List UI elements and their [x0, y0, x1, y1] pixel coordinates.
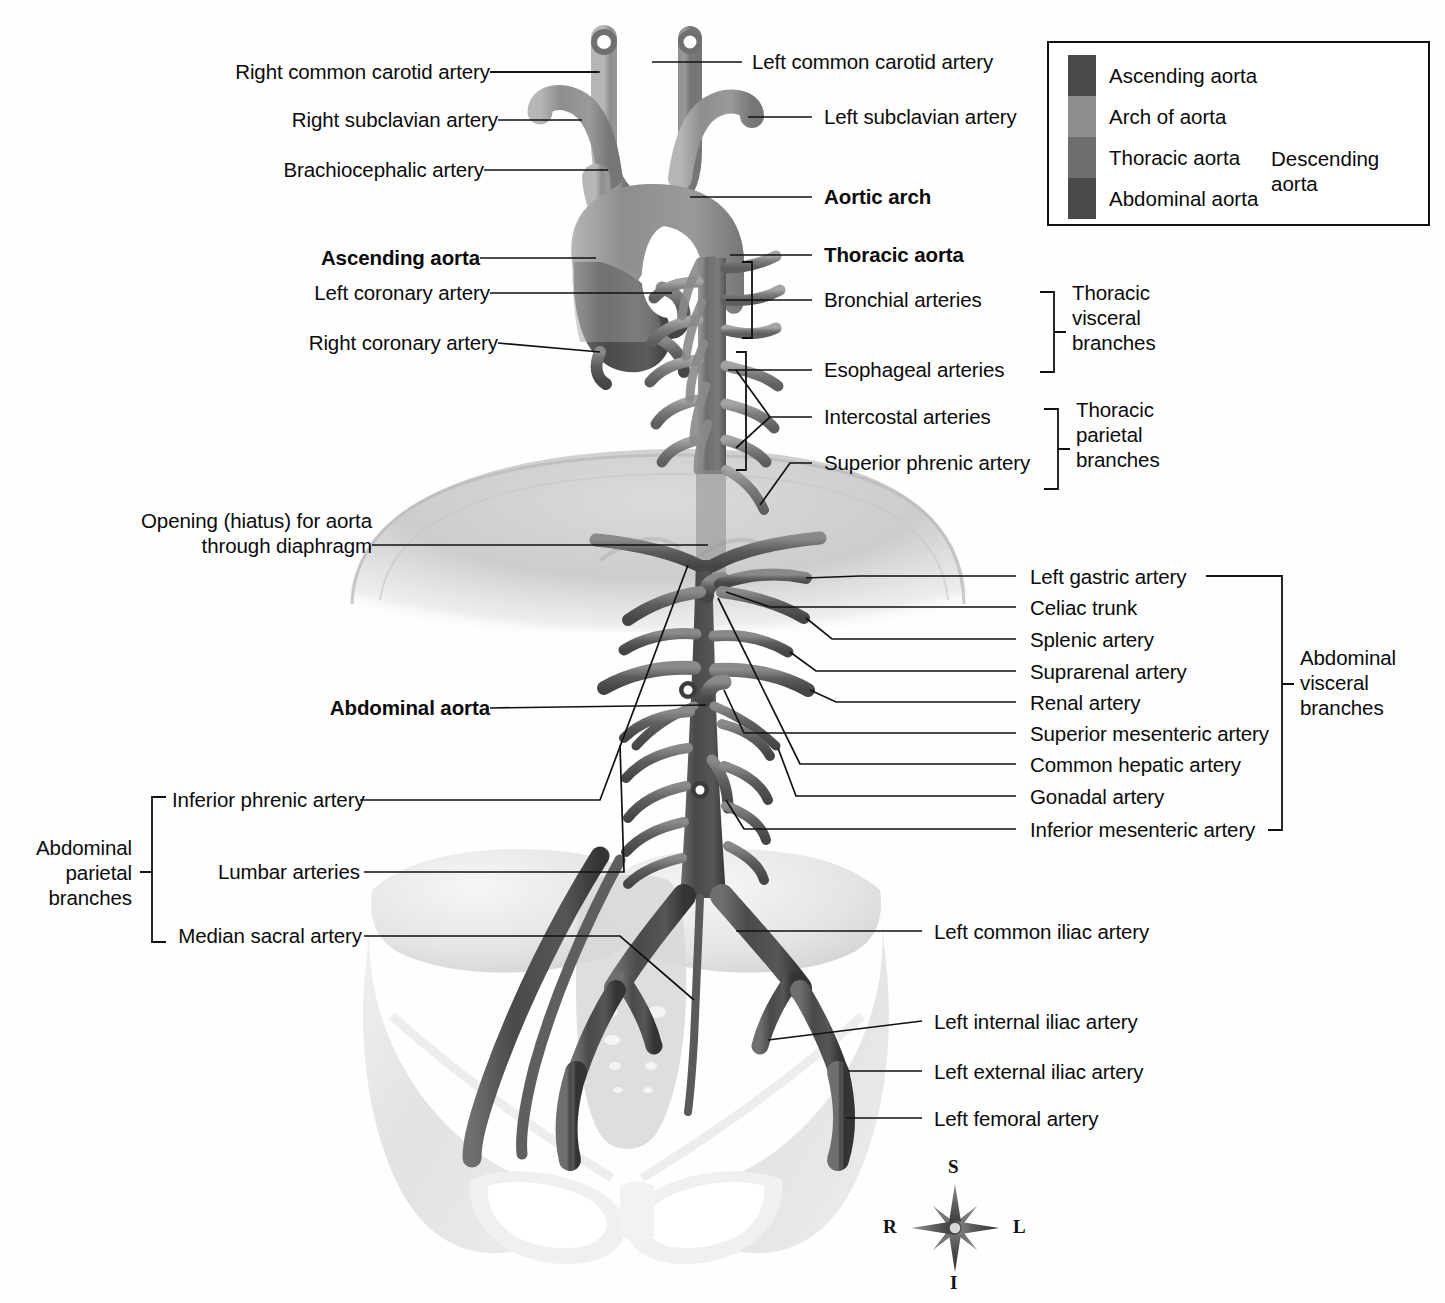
- label-aortic-arch: Aortic arch: [824, 184, 931, 209]
- label-left-femoral-artery: Left femoral artery: [934, 1106, 1098, 1131]
- label-abdominal-aorta: Abdominal aorta: [60, 695, 490, 720]
- label-common-hepatic-artery: Common hepatic artery: [1030, 752, 1241, 777]
- suprarenal-left: [624, 634, 696, 650]
- group-abdominal-visceral-line2: visceral: [1300, 670, 1369, 695]
- group-thoracic-parietal-line1: Thoracic: [1076, 397, 1154, 422]
- label-left-internal-iliac-artery: Left internal iliac artery: [934, 1009, 1138, 1034]
- label-left-gastric-artery: Left gastric artery: [1030, 564, 1186, 589]
- group-thoracic-visceral-line1: Thoracic: [1072, 280, 1150, 305]
- intercostal-branch-1: [726, 366, 778, 386]
- legend-swatch-arch: [1068, 96, 1096, 137]
- left-internal-iliac-vessel: [760, 980, 792, 1046]
- label-left-common-carotid-artery: Left common carotid artery: [752, 49, 993, 74]
- legend-box: Ascending aorta Arch of aorta Thoracic a…: [1047, 41, 1430, 226]
- label-renal-artery: Renal artery: [1030, 690, 1140, 715]
- label-superior-mesenteric-artery: Superior mesenteric artery: [1030, 721, 1269, 746]
- right-subclavian-vessel: [540, 98, 610, 176]
- legend-swatch-ascending: [1068, 55, 1096, 96]
- compass-label-inferior: I: [950, 1272, 957, 1294]
- pelvis-bone: [363, 849, 889, 1264]
- orientation-compass: S I R L: [885, 1160, 1025, 1295]
- legend-label-thoracic-aorta: Thoracic aorta: [1109, 146, 1240, 170]
- label-right-subclavian-artery: Right subclavian artery: [140, 107, 498, 132]
- suprarenal-right: [714, 636, 788, 652]
- label-lumbar-arteries: Lumbar arteries: [172, 859, 360, 884]
- figure-canvas: Ascending aorta Arch of aorta Thoracic a…: [0, 0, 1445, 1303]
- compass-label-right: R: [883, 1216, 897, 1238]
- group-thoracic-parietal-line2: parietal: [1076, 422, 1142, 447]
- label-thoracic-aorta: Thoracic aorta: [824, 242, 964, 267]
- label-ascending-aorta: Ascending aorta: [140, 245, 480, 270]
- group-thoracic-parietal-line3: branches: [1076, 447, 1160, 472]
- label-intercostal-arteries: Intercostal arteries: [824, 404, 991, 429]
- label-celiac-trunk: Celiac trunk: [1030, 595, 1137, 620]
- left-subclavian-vessel: [680, 102, 752, 178]
- label-suprarenal-artery: Suprarenal artery: [1030, 659, 1187, 684]
- group-abdominal-visceral-line1: Abdominal: [1300, 645, 1396, 670]
- esophageal-branch: [726, 328, 776, 334]
- label-splenic-artery: Splenic artery: [1030, 627, 1154, 652]
- label-esophageal-arteries: Esophageal arteries: [824, 357, 1004, 382]
- legend-swatch-thoracic: [1068, 137, 1096, 178]
- legend-label-abdominal-aorta: Abdominal aorta: [1109, 187, 1258, 211]
- label-superior-phrenic-artery: Superior phrenic artery: [824, 450, 1030, 475]
- label-opening-hiatus-line2: through diaphragm: [40, 533, 372, 558]
- label-gonadal-artery: Gonadal artery: [1030, 784, 1164, 809]
- label-median-sacral-artery: Median sacral artery: [172, 923, 362, 948]
- left-femoral-vessel: [838, 1072, 844, 1160]
- label-left-subclavian-artery: Left subclavian artery: [824, 104, 1017, 129]
- group-thoracic-visceral-line2: visceral: [1072, 305, 1141, 330]
- label-left-coronary-artery: Left coronary artery: [140, 280, 490, 305]
- legend-bracket-descending-line1: Descending: [1271, 147, 1379, 171]
- legend-label-ascending-aorta: Ascending aorta: [1109, 64, 1257, 88]
- intercostal-branch-2: [726, 404, 774, 428]
- group-abdominal-parietal-line3: branches: [8, 885, 132, 910]
- label-brachiocephalic-artery: Brachiocephalic artery: [140, 157, 484, 182]
- legend-bracket-descending-line2: aorta: [1271, 172, 1318, 196]
- compass-label-superior: S: [948, 1156, 959, 1178]
- label-right-coronary-artery: Right coronary artery: [140, 330, 498, 355]
- group-abdominal-parietal-line1: Abdominal: [8, 835, 132, 860]
- renal-left: [604, 668, 694, 688]
- label-inferior-mesenteric-artery: Inferior mesenteric artery: [1030, 817, 1255, 842]
- label-opening-hiatus-line1: Opening (hiatus) for aorta: [40, 508, 372, 533]
- group-abdominal-parietal-line2: parietal: [8, 860, 132, 885]
- label-left-external-iliac-artery: Left external iliac artery: [934, 1059, 1143, 1084]
- compass-label-left: L: [1013, 1216, 1026, 1238]
- group-abdominal-visceral-line3: branches: [1300, 695, 1384, 720]
- label-left-common-iliac-artery: Left common iliac artery: [934, 919, 1149, 944]
- legend-label-arch-of-aorta: Arch of aorta: [1109, 105, 1226, 129]
- legend-swatch-abdominal: [1068, 178, 1096, 219]
- label-inferior-phrenic-artery: Inferior phrenic artery: [172, 787, 365, 812]
- label-bronchial-arteries: Bronchial arteries: [824, 287, 982, 312]
- group-thoracic-visceral-line3: branches: [1072, 330, 1156, 355]
- label-right-common-carotid-artery: Right common carotid artery: [140, 59, 490, 84]
